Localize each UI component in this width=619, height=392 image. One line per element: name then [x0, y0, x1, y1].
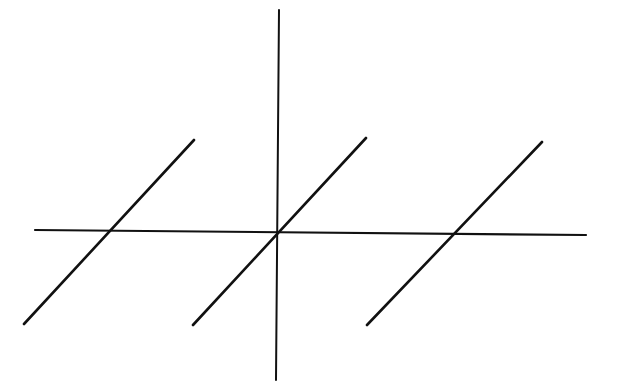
graph-svg	[0, 0, 619, 392]
x-axis	[35, 230, 586, 235]
y-axis	[276, 10, 279, 380]
function-graph	[0, 0, 619, 392]
